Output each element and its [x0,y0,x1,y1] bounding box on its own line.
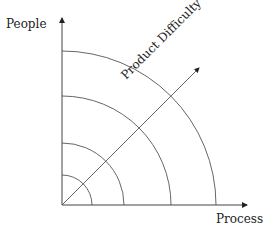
diagram-svg [0,0,269,234]
diagonal-arrow [62,68,199,205]
x-axis-label: Process [216,212,263,226]
y-axis-label: People [6,17,46,31]
quadrant-diagram: People Process Product Difficulty [0,0,269,234]
